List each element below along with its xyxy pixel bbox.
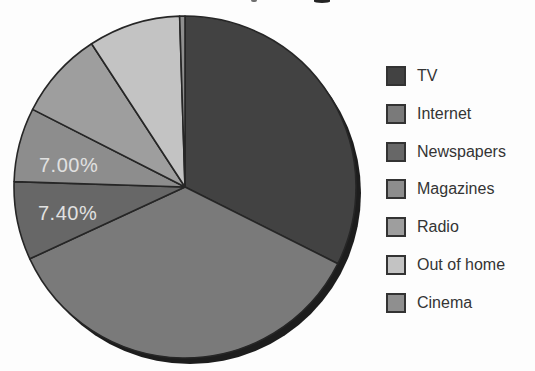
legend-swatch-icon [386, 142, 406, 162]
legend-label: Out of home [417, 255, 505, 275]
slice-label-newspapers: 7.40% [38, 202, 97, 224]
legend-item-cinema: Cinema [386, 293, 506, 313]
legend-label: TV [417, 66, 437, 86]
legend-swatch-icon [386, 179, 406, 199]
legend-swatch-icon [386, 217, 406, 237]
legend-item-magazines: Magazines [386, 179, 506, 199]
legend-label: Newspapers [417, 142, 506, 162]
legend-item-newspapers: Newspapers [386, 142, 506, 162]
legend-item-radio: Radio [386, 217, 506, 237]
legend-label: Internet [417, 104, 471, 124]
legend-item-tv: TV [386, 66, 506, 86]
scanned-pie-chart-page: 7.40%7.00% TVInternetNewspapersMagazines… [0, 0, 535, 371]
legend-label: Cinema [417, 293, 472, 313]
legend-label: Magazines [417, 179, 494, 199]
legend-swatch-icon [386, 293, 406, 313]
chart-legend: TVInternetNewspapersMagazinesRadioOut of… [386, 66, 506, 313]
legend-swatch-icon [386, 255, 406, 275]
legend-item-internet: Internet [386, 104, 506, 124]
legend-label: Radio [417, 217, 459, 237]
legend-swatch-icon [386, 104, 406, 124]
legend-swatch-icon [386, 66, 406, 86]
legend-item-out-of-home: Out of home [386, 255, 506, 275]
slice-label-magazines: 7.00% [39, 154, 98, 176]
